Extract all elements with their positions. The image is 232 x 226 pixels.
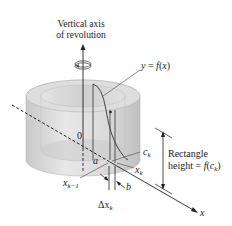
delta-xk-label: Δxk	[98, 199, 113, 212]
b-label: b	[126, 181, 131, 192]
curve-label: y = f(x)	[140, 60, 170, 72]
axis-arrow-up-icon	[81, 44, 86, 50]
rect-label-line2: height = f(ck)	[168, 160, 221, 173]
axis-title-line2: of revolution	[56, 30, 106, 40]
point-fck	[109, 111, 112, 114]
ck-label: ck	[143, 146, 151, 159]
a-label: a	[93, 155, 98, 166]
xk1-label: xk−1	[62, 177, 79, 190]
x-axis-label: x	[199, 207, 205, 218]
origin-label: 0	[77, 130, 82, 141]
axis-title-line1: Vertical axis	[57, 19, 105, 29]
xk-label: xk	[134, 164, 143, 177]
rect-label-line1: Rectangle	[168, 148, 209, 159]
x-axis-arrow-icon	[191, 207, 198, 213]
shell-method-diagram: Vertical axis of revolution y = f(x) x 0…	[0, 0, 232, 226]
